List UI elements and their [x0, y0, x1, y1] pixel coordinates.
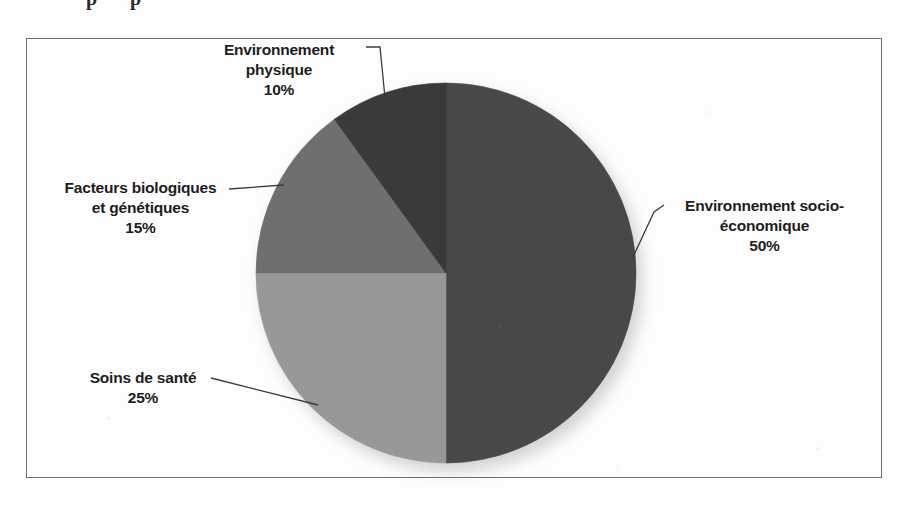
callout-label-facteurs-biologiques: Facteurs biologiques et génétiques 15%: [48, 178, 233, 238]
callout-socio-percent: 50%: [662, 236, 867, 256]
callout-biologiques-line2: et génétiques: [92, 199, 189, 216]
callout-biologiques-percent: 15%: [48, 218, 233, 238]
callout-label-soins-de-sante: Soins de santé 25%: [73, 368, 213, 408]
callout-socio-line2: économique: [720, 217, 809, 234]
pie-svg: [255, 82, 637, 464]
pie-slice: [446, 83, 636, 463]
pie-chart: [255, 82, 637, 464]
callout-label-environnement-socio-economique: Environnement socio- économique 50%: [662, 196, 867, 256]
scanned-page: p p Environnement physique 10% Facteurs …: [0, 0, 909, 510]
callout-socio-line1: Environnement socio-: [685, 197, 844, 214]
callout-soins-line1: Soins de santé: [90, 369, 197, 386]
callout-label-environnement-physique: Environnement physique 10%: [194, 40, 364, 100]
pie-slice: [256, 273, 446, 463]
callout-physique-line1: Environnement: [224, 41, 334, 58]
callout-physique-percent: 10%: [194, 80, 364, 100]
cropped-text-above-figure: p p: [86, 0, 155, 10]
pie-slice-group: [256, 83, 636, 463]
callout-physique-line2: physique: [246, 61, 312, 78]
callout-biologiques-line1: Facteurs biologiques: [65, 179, 217, 196]
callout-soins-percent: 25%: [73, 388, 213, 408]
